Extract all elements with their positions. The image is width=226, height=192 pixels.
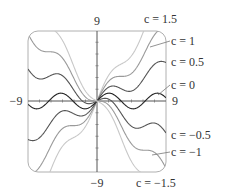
leader-line xyxy=(158,85,170,95)
leader-line xyxy=(150,41,170,47)
label-leader-lines xyxy=(150,41,170,155)
series-label-c-1.5: c = 1.5 xyxy=(144,12,177,26)
series-label-c-0.5: c = 0.5 xyxy=(171,55,204,69)
x-axis-max-label: 9 xyxy=(172,94,178,108)
series-label-c-neg1.5: c = −1.5 xyxy=(136,176,176,190)
series-label-c-1: c = 1 xyxy=(171,34,195,48)
y-axis-max-label: 9 xyxy=(94,14,100,28)
series-label-c-neg0.5: c = −0.5 xyxy=(171,128,211,142)
series-label-c-0: c = 0 xyxy=(171,78,195,92)
x-axis-min-label: −9 xyxy=(10,94,23,108)
y-axis-min-label: −9 xyxy=(91,176,104,190)
series-label-c-neg1: c = −1 xyxy=(171,145,202,159)
function-family-chart: 9 −9 −9 9 c = 1.5 c = 1 c = 0.5 c = 0 c … xyxy=(0,0,226,192)
